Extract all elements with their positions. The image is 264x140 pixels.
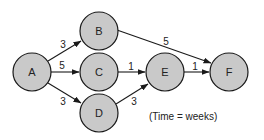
- node-a: A: [13, 53, 51, 91]
- node-f: F: [210, 53, 248, 91]
- edge-label-a-c: 5: [59, 60, 65, 71]
- node-a-label: A: [28, 66, 36, 78]
- node-d-label: D: [95, 107, 103, 119]
- network-diagram: 3 5 3 5 1 3 1 A B C D E F: [0, 0, 264, 140]
- edge-label-a-b: 3: [60, 39, 66, 50]
- diagram-svg: 3 5 3 5 1 3 1 A B C D E F: [0, 0, 264, 140]
- node-b: B: [80, 12, 118, 50]
- node-d: D: [80, 94, 118, 132]
- edge-label-b-f: 5: [163, 36, 169, 47]
- edge-label-c-e: 1: [128, 61, 134, 72]
- node-c-label: C: [95, 66, 103, 78]
- node-f-label: F: [226, 66, 233, 78]
- node-e-label: E: [161, 66, 168, 78]
- node-c: C: [80, 53, 118, 91]
- time-unit-caption: (Time = weeks): [149, 111, 217, 122]
- edge-label-a-d: 3: [60, 96, 66, 107]
- edge-label-e-f: 1: [192, 61, 198, 72]
- node-b-label: B: [95, 25, 102, 37]
- edge-label-d-e: 3: [131, 96, 137, 107]
- node-e: E: [146, 53, 184, 91]
